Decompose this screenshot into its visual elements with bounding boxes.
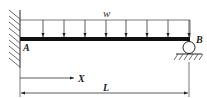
point-a-label: A (22, 42, 30, 53)
x-label: X (77, 73, 85, 84)
fixed-wall-support (9, 10, 20, 68)
beam (20, 37, 190, 41)
position-x-arrow: X (20, 73, 85, 84)
distributed-load: w (20, 7, 190, 37)
load-label: w (103, 7, 111, 19)
point-b-label: B (195, 34, 203, 45)
length-label: L (102, 82, 109, 93)
length-dimension: L (21, 82, 188, 93)
load-arrows (43, 20, 189, 37)
beam-diagram: w A B X L (0, 0, 207, 98)
